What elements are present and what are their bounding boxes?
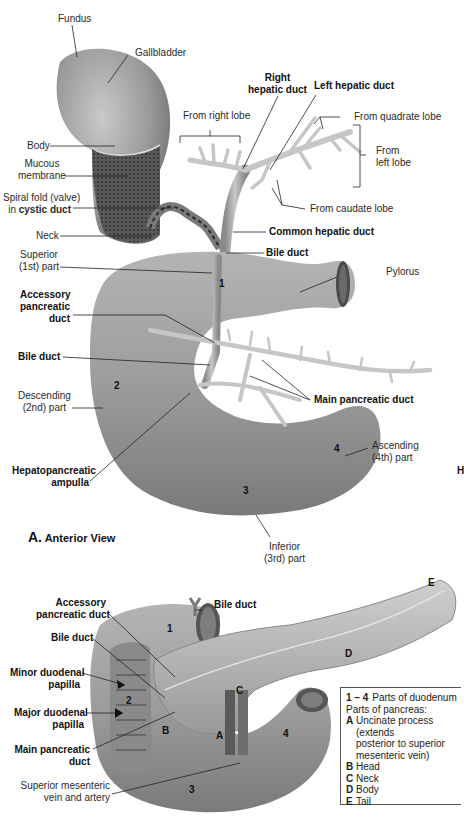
label-main-pancreatic-b-line2: duct: [14, 756, 90, 768]
label-accessory-pancreatic-duct-b: Accessory pancreatic duct: [36, 597, 106, 621]
label-major-duodenal-papilla: Major duodenal papilla: [14, 707, 84, 731]
pancreas-letter-b: B: [162, 725, 169, 736]
label-spiral-line2: in cystic duct: [3, 204, 71, 216]
label-descending-part: Descending (2nd) part: [18, 390, 71, 414]
legend-text-a-cont2: mesenteric vein): [346, 750, 461, 762]
label-accessory-a-line1: Accessory: [20, 289, 70, 301]
legend-text-a: Uncinate process (extends: [356, 715, 461, 738]
label-gallbladder: Gallbladder: [135, 47, 186, 59]
label-accessory-b-line1: Accessory: [36, 597, 106, 609]
pancreas-letter-e: E: [428, 577, 435, 588]
label-main-pancreatic-duct-b: Main pancreatic duct: [14, 744, 90, 768]
legend-text-a-cont1: posterior to superior: [346, 738, 461, 750]
part-number-a-4: 4: [334, 443, 340, 454]
legend-item-b: B Head: [346, 761, 461, 773]
label-minor-papilla-line2: papilla: [10, 679, 80, 691]
label-sup-mesenteric-line1: Superior mesenteric: [14, 780, 110, 792]
label-accessory-a-line3: duct: [20, 313, 70, 325]
label-superior-mesenteric-vessels: Superior mesenteric vein and artery: [14, 780, 110, 804]
pancreas-letter-a: A: [216, 730, 223, 741]
part-number-b-2: 2: [126, 695, 132, 706]
legend-text-b: Head: [356, 761, 380, 773]
label-mucous-line2: membrane: [18, 170, 66, 182]
label-main-pancreatic-b-line1: Main pancreatic: [14, 744, 90, 756]
pancreas-letter-c: C: [236, 685, 243, 696]
legend-item-c: C Neck: [346, 773, 461, 785]
label-neck: Neck: [36, 230, 59, 242]
label-right-hepatic-duct: Right hepatic duct: [248, 72, 307, 96]
label-inferior-line1: Inferior: [264, 541, 305, 553]
label-sup-mesenteric-line2: vein and artery: [14, 792, 110, 804]
label-right-hepatic-line1: Right: [248, 72, 307, 84]
label-bile-duct-mid: Bile duct: [18, 351, 60, 363]
legend-item-a: A Uncinate process (extends: [346, 715, 461, 738]
label-from-quadrate-lobe: From quadrate lobe: [354, 111, 441, 123]
legend-key-c: C: [346, 773, 356, 785]
legend-pancreas-heading: Parts of pancreas:: [346, 704, 461, 716]
part-number-b-1: 1: [167, 623, 173, 634]
edge-fragment-letter: H: [457, 465, 464, 476]
label-mucous-membrane: Mucous membrane: [18, 158, 66, 182]
legend-box: 1 – 4 Parts of duodenum Parts of pancrea…: [340, 687, 461, 805]
label-pylorus: Pylorus: [386, 266, 419, 278]
label-spiral-fold: Spiral fold (valve) in cystic duct: [3, 192, 71, 216]
label-spiral-prefix: in: [8, 204, 19, 215]
label-ascending-line1: Ascending: [372, 440, 419, 452]
label-mucous-line1: Mucous: [18, 158, 66, 170]
label-superior-line2: (1st) part: [19, 261, 59, 273]
label-common-hepatic-duct: Common hepatic duct: [269, 226, 374, 238]
legend-key-b: B: [346, 761, 356, 773]
label-from-caudate-lobe: From caudate lobe: [310, 203, 393, 215]
label-accessory-a-line2: pancreatic: [20, 301, 70, 313]
label-from-left-line2: left lobe: [376, 157, 411, 169]
label-ascending-part: Ascending (4th) part: [372, 440, 419, 464]
label-from-left-line1: From: [376, 145, 411, 157]
label-bile-duct-b: Bile duct: [214, 599, 256, 611]
label-ampulla-line2: ampulla: [12, 477, 89, 489]
label-inferior-part: Inferior (3rd) part: [264, 541, 305, 565]
label-minor-duodenal-papilla: Minor duodenal papilla: [10, 667, 80, 691]
label-bile-duct-b-left: Bile duct: [51, 632, 93, 644]
legend-key-d: D: [346, 784, 356, 796]
label-superior-part: Superior (1st) part: [19, 249, 59, 273]
view-title-text: Anterior View: [45, 532, 116, 544]
label-from-right-lobe: From right lobe: [183, 110, 250, 122]
legend-text-d: Body: [356, 784, 379, 796]
view-title-letter: A.: [28, 529, 42, 545]
legend-duodenum-key: 1 – 4: [346, 692, 368, 704]
legend-key-e: E: [346, 796, 356, 808]
pancreas-letter-d: D: [345, 648, 352, 659]
label-accessory-b-line2: pancreatic duct: [36, 609, 106, 621]
label-bile-duct-top: Bile duct: [266, 247, 308, 259]
legend-item-d: D Body: [346, 784, 461, 796]
part-number-b-4: 4: [283, 728, 289, 739]
label-major-papilla-line1: Major duodenal: [14, 707, 84, 719]
label-descending-line1: Descending: [18, 390, 71, 402]
label-right-hepatic-line2: hepatic duct: [248, 84, 307, 96]
label-descending-line2: (2nd) part: [18, 402, 71, 414]
part-number-a-2: 2: [114, 380, 120, 391]
label-spiral-line1: Spiral fold (valve): [3, 192, 71, 204]
label-fundus: Fundus: [58, 13, 91, 25]
label-body: Body: [27, 140, 50, 152]
label-ampulla-line1: Hepatopancreatic: [12, 465, 89, 477]
part-number-a-1: 1: [219, 278, 225, 289]
cystic-duct-shape: [150, 207, 220, 248]
part-number-b-3: 3: [189, 784, 195, 795]
view-title-anterior: A. Anterior View: [28, 529, 115, 545]
label-from-left-lobe: From left lobe: [376, 145, 411, 169]
label-superior-line1: Superior: [19, 249, 59, 261]
label-minor-papilla-line1: Minor duodenal: [10, 667, 80, 679]
legend-text-c: Neck: [356, 773, 379, 785]
legend-item-e: E Tail: [346, 796, 461, 808]
label-left-hepatic-duct: Left hepatic duct: [314, 80, 394, 92]
legend-duodenum-row: 1 – 4 Parts of duodenum: [346, 692, 461, 704]
legend-duodenum-text: Parts of duodenum: [372, 692, 457, 704]
label-ascending-line2: (4th) part: [372, 452, 419, 464]
legend-key-a: A: [346, 715, 356, 738]
label-cystic-duct: cystic duct: [19, 204, 71, 215]
label-major-papilla-line2: papilla: [14, 719, 84, 731]
label-main-pancreatic-duct-a: Main pancreatic duct: [314, 394, 413, 406]
label-hepatopancreatic-ampulla: Hepatopancreatic ampulla: [12, 465, 89, 489]
label-accessory-pancreatic-duct-a: Accessory pancreatic duct: [20, 289, 70, 325]
